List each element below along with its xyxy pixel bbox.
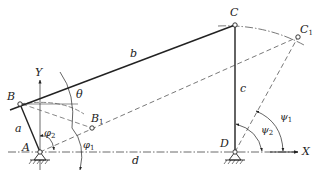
joint-B bbox=[18, 102, 22, 106]
link-b bbox=[10, 25, 235, 110]
label-link-b: b bbox=[130, 47, 137, 60]
label-link-c: c bbox=[240, 82, 246, 95]
joint-A bbox=[38, 150, 42, 154]
label-link-d: d bbox=[132, 154, 139, 167]
label-psi2: ψ2 bbox=[261, 124, 273, 137]
joint-C bbox=[233, 23, 237, 27]
label-link-a: a bbox=[15, 122, 22, 135]
label-x-axis: X bbox=[301, 145, 311, 158]
label-phi2: φ2 bbox=[44, 127, 55, 140]
psi2-arc bbox=[236, 124, 262, 151]
label-theta: θ bbox=[76, 88, 83, 101]
label-psi1: ψ1 bbox=[280, 111, 292, 124]
joint-B1 bbox=[90, 126, 94, 130]
theta-arc bbox=[60, 72, 73, 128]
label-C: C bbox=[230, 6, 239, 19]
label-D: D bbox=[219, 137, 229, 150]
rocker-arc bbox=[218, 26, 304, 45]
label-A: A bbox=[21, 141, 30, 154]
joint-D bbox=[233, 150, 237, 154]
four-bar-linkage-diagram: A B B1 C C1 D a b c d X Y θ φ2 φ1 ψ2 ψ1 bbox=[0, 0, 320, 180]
label-y-axis: Y bbox=[35, 66, 44, 79]
dashed-line-B-B1 bbox=[22, 104, 92, 128]
label-B: B bbox=[6, 90, 15, 103]
label-C1: C1 bbox=[300, 23, 313, 37]
label-B1: B1 bbox=[90, 112, 104, 126]
label-phi1: φ1 bbox=[83, 139, 94, 152]
